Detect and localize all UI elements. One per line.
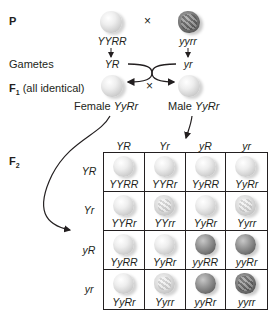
- pea-yellow-wrinkled: [154, 273, 175, 294]
- punnett-cell: YYRr: [145, 153, 186, 192]
- f1-female-prefix: Female: [74, 100, 114, 112]
- f1-note: (all identical): [20, 82, 85, 94]
- cell-genotype: YyRr: [104, 296, 144, 308]
- punnett-cell: YyRR: [186, 153, 227, 192]
- gametes-label: Gametes: [9, 58, 54, 70]
- parent-left-genotype: YYRR: [92, 35, 132, 47]
- punnett-cell: YyRr: [226, 153, 267, 192]
- cell-genotype: YYRr: [104, 217, 144, 229]
- cross-symbol-parents: ×: [144, 14, 151, 28]
- row-header: yR: [78, 244, 100, 256]
- f2-subscript: 2: [16, 162, 20, 169]
- gamete-right: yr: [168, 58, 208, 70]
- pea-f1-female: [101, 75, 123, 97]
- punnett-cell: yyRr: [186, 270, 227, 309]
- parent-right-genotype: yyrr: [168, 35, 208, 47]
- f1-female-genotype: YyRr: [114, 100, 138, 112]
- arrow-female-to-f2-rows: [44, 116, 110, 230]
- pea-parent-green-wrinkled: [178, 11, 200, 33]
- punnett-cell: YYrr: [145, 192, 186, 231]
- punnett-cell: YyRR: [104, 231, 145, 270]
- cell-genotype: YyRR: [186, 178, 226, 190]
- f2-main: F: [9, 155, 16, 167]
- punnett-cell: Yyrr: [145, 270, 186, 309]
- cross-symbol-f1: ×: [146, 79, 153, 93]
- pea-yellow-wrinkled: [235, 195, 256, 216]
- f2-generation-label: F2: [9, 155, 20, 169]
- pea-parent-yellow-round: [100, 11, 122, 33]
- pea-green-round: [195, 273, 216, 294]
- pea-yellow-wrinkled: [154, 195, 175, 216]
- column-header: yr: [226, 140, 267, 152]
- punnett-cell: YyRr: [104, 270, 145, 309]
- cell-genotype: yyrr: [226, 296, 267, 308]
- cell-genotype: YyRr: [186, 217, 226, 229]
- pea-green-round: [195, 234, 216, 255]
- punnett-cell: YYRR: [104, 153, 145, 192]
- cell-genotype: Yyrr: [226, 217, 267, 229]
- punnett-cell: Yyrr: [226, 192, 267, 231]
- pea-f1-male: [178, 75, 200, 97]
- punnett-cell: YyRr: [145, 231, 186, 270]
- cell-genotype: YyRr: [226, 178, 267, 190]
- f1-generation-label: F1 (all identical): [9, 82, 84, 96]
- cell-genotype: yyRr: [226, 256, 267, 268]
- cell-genotype: YyRr: [145, 256, 185, 268]
- f1-main: F: [9, 82, 16, 94]
- row-header: yr: [78, 283, 100, 295]
- punnett-square: YYRR YYRr YyRR YyRr YYRr YYrr YyRr Yyrr …: [103, 152, 268, 310]
- cell-genotype: YYRr: [145, 178, 185, 190]
- cell-genotype: yyRr: [186, 296, 226, 308]
- pea-yellow-round: [195, 156, 216, 177]
- punnett-cell: yyRR: [186, 231, 227, 270]
- pea-yellow-round: [113, 195, 134, 216]
- pea-green-wrinkled: [235, 273, 256, 294]
- pea-yellow-round: [154, 156, 175, 177]
- punnett-cell: yyRr: [226, 231, 267, 270]
- f1-male-genotype: YyRr: [195, 100, 219, 112]
- punnett-cell: YyRr: [186, 192, 227, 231]
- pea-green-round: [235, 234, 256, 255]
- f1-female-label: Female YyRr: [74, 100, 138, 112]
- pea-yellow-round: [195, 195, 216, 216]
- p-generation-label: P: [9, 15, 16, 27]
- punnett-cell: yyrr: [226, 270, 267, 309]
- pea-yellow-round: [154, 234, 175, 255]
- pea-yellow-round: [113, 234, 134, 255]
- cell-genotype: yyRR: [186, 256, 226, 268]
- row-header: YR: [78, 165, 100, 177]
- pea-yellow-round: [113, 156, 134, 177]
- punnett-cell: YYRr: [104, 192, 145, 231]
- column-header: yR: [185, 140, 226, 152]
- cell-genotype: YyRR: [104, 256, 144, 268]
- pea-yellow-round: [235, 156, 256, 177]
- column-header: YR: [103, 140, 144, 152]
- gamete-left: YR: [92, 58, 132, 70]
- arrow-male-to-f2-columns: [186, 116, 192, 138]
- cell-genotype: YYRR: [104, 178, 144, 190]
- f1-male-label: Male YyRr: [168, 100, 219, 112]
- row-header: Yr: [78, 204, 100, 216]
- f1-male-prefix: Male: [168, 100, 195, 112]
- cell-genotype: YYrr: [145, 217, 185, 229]
- cell-genotype: Yyrr: [145, 296, 185, 308]
- pea-yellow-round: [113, 273, 134, 294]
- column-header: Yr: [144, 140, 185, 152]
